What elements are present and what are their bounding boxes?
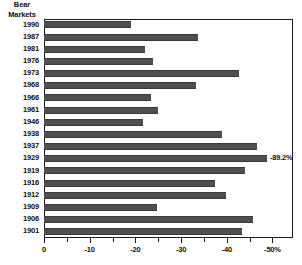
corner-label-line-1: Bear <box>0 0 44 10</box>
x-axis-minor-tick <box>250 238 251 242</box>
bar-row: 1976 <box>44 56 293 68</box>
bar <box>44 216 253 223</box>
bar <box>44 204 157 211</box>
bars-container: 1990198719811976197319681966196119461938… <box>44 19 293 238</box>
bar <box>44 82 196 89</box>
bar-year-label: 1981 <box>1 44 39 53</box>
bar-row: 1912 <box>44 189 293 201</box>
x-axis-tick-label: -10 <box>85 245 95 254</box>
bar <box>44 131 222 138</box>
x-axis-tick <box>90 238 91 243</box>
bar-row: 1966 <box>44 92 293 104</box>
x-axis-tick-label: -40 <box>222 245 232 254</box>
bar-row: 1909 <box>44 202 293 214</box>
bar <box>44 70 239 77</box>
x-axis: 0-10-20-30-40-50% <box>44 238 294 265</box>
bar <box>44 192 226 199</box>
bar-row: 1990 <box>44 19 293 31</box>
bar-row: 1919 <box>44 165 293 177</box>
bar-year-label: 1906 <box>1 214 39 223</box>
bar <box>44 94 151 101</box>
x-axis-minor-tick <box>204 238 205 242</box>
bar-value-annotation: -89.2% <box>270 153 293 162</box>
bar-row: 1916 <box>44 177 293 189</box>
corner-label-line-2: Markets <box>0 10 44 20</box>
bar-row: 1906 <box>44 214 293 226</box>
x-axis-tick <box>44 238 45 243</box>
bar-year-label: 1938 <box>1 129 39 138</box>
bar-year-label: 1968 <box>1 80 39 89</box>
bar <box>44 167 245 174</box>
bar-year-label: 1966 <box>1 93 39 102</box>
bar-year-label: 1973 <box>1 68 39 77</box>
bar <box>44 180 215 187</box>
x-axis-minor-tick <box>158 238 159 242</box>
bar-year-label: 1961 <box>1 105 39 114</box>
x-axis-tick-label: 0 <box>42 245 46 254</box>
bar-row: 1946 <box>44 116 293 128</box>
x-axis-tick-label: -50% <box>264 245 281 254</box>
chart-corner-label: Bear Markets <box>0 0 44 19</box>
bar <box>44 58 153 65</box>
x-axis-tick <box>272 238 273 243</box>
bar-row: 1968 <box>44 80 293 92</box>
bar <box>44 46 145 53</box>
bar-row: 1901 <box>44 226 293 238</box>
bar-row: 1981 <box>44 43 293 55</box>
bar <box>44 34 198 41</box>
bar-row: 1961 <box>44 104 293 116</box>
bar <box>44 21 131 28</box>
bar <box>44 155 267 162</box>
bar-row: 1987 <box>44 31 293 43</box>
bar <box>44 228 242 235</box>
bar-year-label: 1987 <box>1 32 39 41</box>
bar-row: 1929-89.2% <box>44 153 293 165</box>
bar-year-label: 1912 <box>1 190 39 199</box>
x-axis-minor-tick <box>113 238 114 242</box>
bar-year-label: 1976 <box>1 56 39 65</box>
bar-year-label: 1919 <box>1 166 39 175</box>
bar-year-label: 1909 <box>1 202 39 211</box>
bar-year-label: 1990 <box>1 20 39 29</box>
x-axis-tick <box>227 238 228 243</box>
bar-row: 1937 <box>44 141 293 153</box>
bar-year-label: 1929 <box>1 153 39 162</box>
bear-markets-chart: Bear Markets 199019871981197619731968196… <box>0 0 302 265</box>
bar-year-label: 1916 <box>1 178 39 187</box>
x-axis-tick <box>135 238 136 243</box>
x-axis-minor-tick <box>67 238 68 242</box>
bar-row: 1938 <box>44 129 293 141</box>
bar <box>44 107 158 114</box>
bar <box>44 119 143 126</box>
bar-row: 1973 <box>44 68 293 80</box>
bar-year-label: 1901 <box>1 226 39 235</box>
bar <box>44 143 257 150</box>
bar-year-label: 1946 <box>1 117 39 126</box>
x-axis-tick <box>181 238 182 243</box>
x-axis-tick-label: -30 <box>176 245 186 254</box>
bar-year-label: 1937 <box>1 141 39 150</box>
x-axis-tick-label: -20 <box>130 245 140 254</box>
